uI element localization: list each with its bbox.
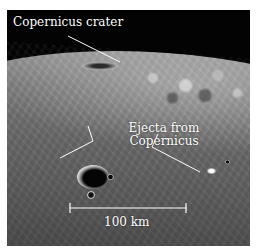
ejecta-label: Ejecta from Copernicus bbox=[119, 122, 209, 148]
copernicus-crater-label: Copernicus crater bbox=[13, 16, 123, 29]
scale-label: 100 km bbox=[104, 216, 149, 229]
ejecta-pointer-left bbox=[60, 126, 93, 158]
ejecta-label-line2: Copernicus bbox=[119, 135, 209, 148]
crater-pointer-line bbox=[68, 36, 120, 62]
